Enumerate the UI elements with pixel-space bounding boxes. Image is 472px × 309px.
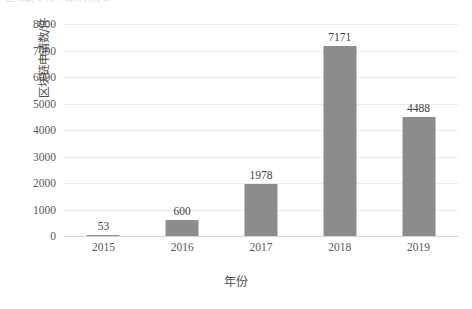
bar-2016[interactable] <box>166 220 199 236</box>
y-tick-label-0: 0 <box>8 230 56 242</box>
bar-group-2017: 1978 <box>222 24 301 236</box>
y-tick-label-7000: 7000 <box>8 45 56 57</box>
y-tick-label-2000: 2000 <box>8 177 56 189</box>
gridline-0 <box>64 236 458 237</box>
x-tick-label-2018: 2018 <box>300 241 379 253</box>
x-tick-label-2017: 2017 <box>222 241 301 253</box>
bar-group-2016: 600 <box>143 24 222 236</box>
y-tick-label-3000: 3000 <box>8 151 56 163</box>
x-tick-label-2015: 2015 <box>64 241 143 253</box>
bar-group-2019: 4488 <box>379 24 458 236</box>
bar-value-label-2017: 1978 <box>249 169 272 181</box>
x-tick-label-2016: 2016 <box>143 241 222 253</box>
bar-value-label-2019: 4488 <box>407 102 430 114</box>
bar-2019[interactable] <box>402 117 435 236</box>
bar-value-label-2015: 53 <box>98 220 110 232</box>
y-tick-label-8000: 8000 <box>8 18 56 30</box>
bar-value-label-2018: 7171 <box>328 31 351 43</box>
bar-2018[interactable] <box>323 46 356 236</box>
y-tick-label-5000: 5000 <box>8 98 56 110</box>
bar-group-2015: 53 <box>64 24 143 236</box>
x-tick-label-2019: 2019 <box>379 241 458 253</box>
x-axis-tick-labels: 20152016201720182019 <box>64 241 458 259</box>
plot-area: 53600197871714488 <box>64 24 458 236</box>
bar-chart: 区块链申请数/件 0100020003000400050006000700080… <box>0 0 472 309</box>
bar-2017[interactable] <box>244 184 277 236</box>
bar-2015[interactable] <box>87 235 120 237</box>
bar-group-2018: 7171 <box>300 24 379 236</box>
y-tick-label-4000: 4000 <box>8 124 56 136</box>
bar-value-label-2016: 600 <box>174 205 191 217</box>
y-tick-label-1000: 1000 <box>8 204 56 216</box>
y-tick-label-6000: 6000 <box>8 71 56 83</box>
x-axis-title: 年份 <box>0 272 472 289</box>
